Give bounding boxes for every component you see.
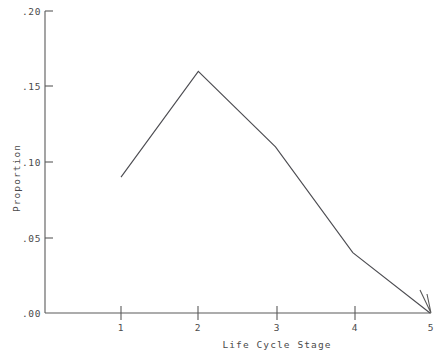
- y-tick-label-00: .00: [22, 308, 41, 319]
- line-chart-svg: .20 .15 .10 .05 .00 1 2 3 4 5 Life Cycle…: [0, 0, 442, 359]
- x-axis-title: Life Cycle Stage: [222, 339, 331, 350]
- y-tick-label-05: .05: [22, 233, 41, 244]
- y-axis-title: Proportion: [11, 144, 22, 212]
- y-tick-label-10: .10: [22, 157, 41, 168]
- y-tick-label-20: .20: [22, 6, 41, 17]
- data-series-line: [121, 71, 430, 313]
- x-tick-label-3: 3: [274, 322, 280, 333]
- y-tick-label-15: .15: [22, 81, 41, 92]
- x-tick-label-2: 2: [195, 322, 201, 333]
- x-tick-label-5: 5: [428, 322, 434, 333]
- x-tick-label-1: 1: [118, 322, 124, 333]
- chart-figure: .20 .15 .10 .05 .00 1 2 3 4 5 Life Cycle…: [0, 0, 442, 359]
- x-tick-label-4: 4: [352, 322, 358, 333]
